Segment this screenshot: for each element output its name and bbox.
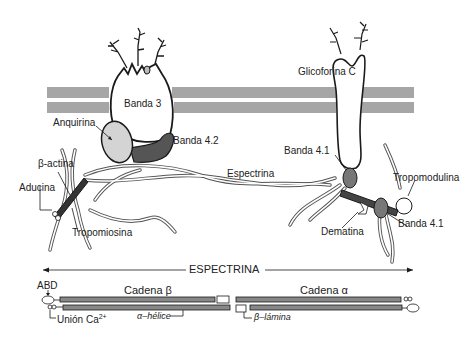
label-beta-actina: β-actina xyxy=(38,159,74,169)
union-ca-text: Unión Ca xyxy=(57,314,99,325)
label-beta-lamina: β–lámina xyxy=(254,313,291,322)
label-banda41-bottom: Banda 4.1 xyxy=(398,219,444,229)
label-cadena-beta: Cadena β xyxy=(124,285,172,296)
band41-bottom-protein xyxy=(374,198,388,218)
label-abd: ABD xyxy=(37,281,58,291)
tropomodulin-loop xyxy=(396,198,412,214)
label-tropomiosina: Tropomiosina xyxy=(72,228,132,238)
right-actin-filament xyxy=(340,190,398,216)
label-alpha-helice: α–hélice xyxy=(137,312,171,321)
band3-glycans xyxy=(108,28,166,68)
label-espectrina-title: ESPECTRINA xyxy=(189,264,259,275)
leader-lines xyxy=(40,155,415,232)
label-aducina: Aducina xyxy=(19,183,55,193)
label-banda42: Banda 4.2 xyxy=(173,136,219,146)
label-banda3: Banda 3 xyxy=(124,99,161,109)
band41-top-protein xyxy=(343,168,357,188)
label-anquirina: Anquirina xyxy=(53,118,95,128)
label-cadena-alpha: Cadena α xyxy=(300,285,348,296)
label-glicoforina-c: Glicoforina C xyxy=(298,67,356,77)
left-actin-filament xyxy=(54,178,88,220)
union-ca-superscript: 2+ xyxy=(99,313,107,320)
label-tropomodulina: Tropomodulina xyxy=(393,173,459,183)
spectrin-schematic xyxy=(42,268,419,319)
label-dematina: Dematina xyxy=(321,227,364,237)
label-union-ca: Unión Ca2+ xyxy=(57,313,107,325)
label-banda41-top: Banda 4.1 xyxy=(284,146,330,156)
label-espectrina: Espectrina xyxy=(227,169,274,179)
glycophorin-c-glycans xyxy=(330,22,368,54)
